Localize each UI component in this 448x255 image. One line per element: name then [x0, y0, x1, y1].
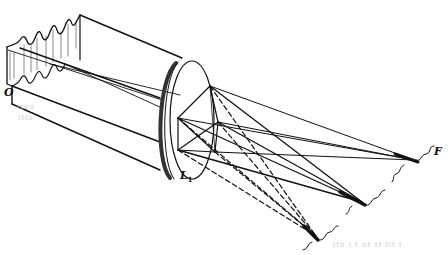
- focus-label-text: F: [434, 145, 442, 158]
- lens-label-sub: 1: [188, 175, 193, 184]
- faint-text-left-1: ttsu: [17, 104, 35, 111]
- faint-text-left-2: itio: [18, 115, 34, 122]
- focus-label: F: [434, 146, 442, 157]
- dashed-rays: [178, 86, 316, 236]
- lens-label-main: L: [180, 169, 188, 182]
- object-label-text: O: [4, 86, 14, 99]
- lens-label: L1: [180, 170, 193, 183]
- object-label: O: [4, 87, 14, 98]
- beam: [8, 15, 182, 170]
- faint-text-bottom-right: ith i t ut tf lit i: [333, 242, 402, 249]
- wavefront: [7, 15, 80, 86]
- optics-diagram: O L1 F ttsu itio ith i t ut tf lit i: [0, 0, 448, 255]
- diagram-canvas: [0, 0, 448, 255]
- lower-focus-mark: [304, 226, 318, 240]
